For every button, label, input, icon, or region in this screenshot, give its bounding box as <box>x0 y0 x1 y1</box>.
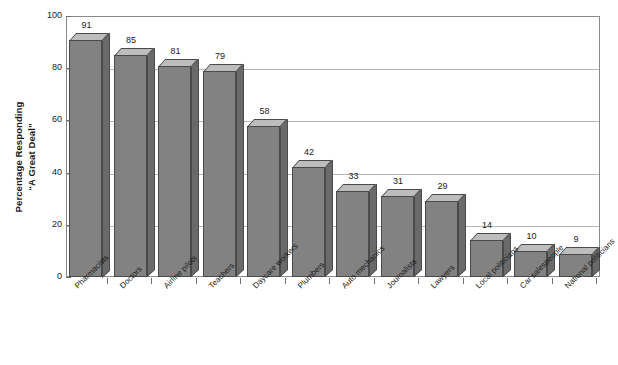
bar-value-label: 85 <box>104 35 159 45</box>
y-axis-tick <box>66 225 71 226</box>
bar-value-label: 42 <box>282 147 337 157</box>
bar-value-label: 14 <box>460 220 515 230</box>
x-axis-tick <box>552 278 553 284</box>
bar-value-label: 58 <box>237 106 292 116</box>
y-axis-tick <box>66 68 71 69</box>
x-axis-tick <box>418 278 419 284</box>
y-axis-title-line-2: “A Great Deal” <box>26 42 39 272</box>
y-axis-tick <box>66 277 71 278</box>
bar-value-label: 91 <box>59 20 114 30</box>
bar-front-face <box>69 40 102 278</box>
y-axis-tick <box>66 16 71 17</box>
x-axis-tick <box>240 278 241 284</box>
y-axis-tick-label: 20 <box>22 220 62 229</box>
bar: 85 <box>114 55 147 277</box>
y-axis-tick-label: 40 <box>22 168 62 177</box>
bars-layer: 91858179584233312914109 <box>66 16 600 277</box>
bar: 79 <box>203 71 236 277</box>
bar: 81 <box>158 66 191 277</box>
bar-value-label: 9 <box>549 234 604 244</box>
x-axis-tick <box>151 278 152 284</box>
bar-front-face <box>247 126 280 277</box>
y-axis-tick-label: 0 <box>22 272 62 281</box>
y-axis-title-line-1: Percentage Responding <box>13 42 26 272</box>
bar-value-label: 79 <box>193 51 248 61</box>
y-axis-tick <box>66 120 71 121</box>
x-axis-tick <box>285 278 286 284</box>
bar: 91 <box>69 40 102 278</box>
x-axis-tick <box>596 278 597 284</box>
bar-chart: Percentage Responding “A Great Deal” 918… <box>0 0 618 365</box>
y-axis-tick-label: 80 <box>22 63 62 72</box>
bar-side-face <box>102 32 110 277</box>
bar-side-face <box>236 64 244 277</box>
bar-value-label: 29 <box>415 181 470 191</box>
x-axis-tick <box>107 278 108 284</box>
bar-front-face <box>158 66 191 277</box>
y-axis-tick-label: 100 <box>22 11 62 20</box>
bar: 58 <box>247 126 280 277</box>
x-axis-tick <box>463 278 464 284</box>
bar-side-face <box>191 58 199 277</box>
y-axis-tick <box>66 173 71 174</box>
x-axis-tick <box>329 278 330 284</box>
bar-front-face <box>203 71 236 277</box>
bar-front-face <box>114 55 147 277</box>
x-axis-tick <box>196 278 197 284</box>
x-axis-tick <box>374 278 375 284</box>
x-axis-tick <box>507 278 508 284</box>
y-axis-title: Percentage Responding “A Great Deal” <box>13 42 43 272</box>
bar-side-face <box>458 194 466 277</box>
y-axis-tick-label: 60 <box>22 115 62 124</box>
bar-side-face <box>147 48 155 277</box>
